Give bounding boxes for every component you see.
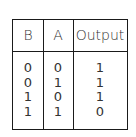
cell: 1: [43, 76, 73, 91]
cell: 0: [73, 105, 127, 120]
truth-table: B A Output 0 0 1 1 0 1 0 1 1 1 1 0: [12, 19, 128, 130]
cell: 0: [43, 61, 73, 76]
cell: 1: [43, 105, 73, 120]
cell: 1: [73, 90, 127, 105]
column-output: 1 1 1 0: [73, 61, 127, 119]
header-b: B: [13, 27, 43, 43]
header-output: Output: [73, 27, 127, 43]
cell: 0: [13, 61, 43, 76]
cell: 1: [73, 76, 127, 91]
cell: 1: [13, 90, 43, 105]
cell: 0: [13, 76, 43, 91]
header-a: A: [43, 27, 73, 43]
cell: 1: [13, 105, 43, 120]
header-divider: [13, 51, 127, 52]
cell: 1: [73, 61, 127, 76]
column-b: 0 0 1 1: [13, 61, 43, 119]
column-a: 0 1 0 1: [43, 61, 73, 119]
cell: 0: [43, 90, 73, 105]
